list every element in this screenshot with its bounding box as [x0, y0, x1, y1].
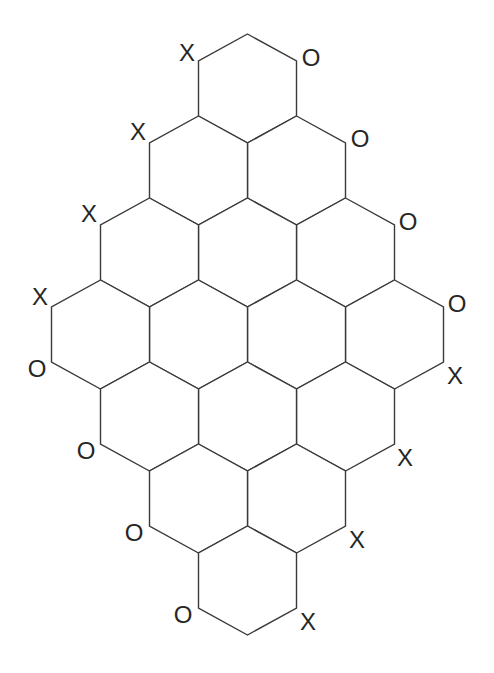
x-marker: X [32, 283, 48, 310]
o-marker: O [399, 208, 418, 235]
x-marker: X [447, 362, 463, 389]
hex-cells [52, 34, 444, 635]
o-marker: O [448, 290, 467, 317]
x-marker: X [179, 39, 195, 66]
hex-board: XXXXOOOOOOOOXXXX [0, 0, 494, 673]
o-marker: O [351, 125, 370, 152]
x-marker: X [397, 444, 413, 471]
x-marker: X [349, 526, 365, 553]
o-marker: O [125, 519, 144, 546]
x-marker: X [130, 118, 146, 145]
o-marker: O [28, 355, 47, 382]
x-marker: X [300, 608, 316, 635]
o-marker: O [302, 44, 321, 71]
o-marker: O [77, 437, 96, 464]
o-marker: O [174, 601, 193, 628]
x-marker: X [81, 200, 97, 227]
